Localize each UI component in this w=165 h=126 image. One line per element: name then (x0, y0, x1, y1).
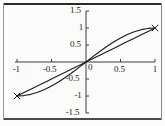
x-tick-label: 0.5 (114, 65, 125, 74)
y-tick-label: 1.5 (70, 6, 81, 15)
x-tick-label: -0.5 (43, 65, 56, 74)
origin-label: 0 (88, 63, 92, 72)
x-tick-label: 1 (153, 65, 157, 74)
y-tick-label: -1.5 (66, 108, 79, 117)
y-tick-label: 1 (79, 23, 83, 32)
figure-root: -1-0.50.511.510.5-0.5-1-1.50 (0, 0, 165, 126)
x-tick-label: -1 (13, 65, 20, 74)
plot-area: -1-0.50.511.510.5-0.5-1-1.50 (4, 5, 161, 118)
y-tick-label: 0.5 (70, 40, 81, 49)
y-tick-label: -1 (74, 91, 81, 100)
frame-border-bottom (3, 118, 162, 120)
frame-border-right (161, 3, 162, 120)
y-tick-label: -0.5 (66, 74, 79, 83)
